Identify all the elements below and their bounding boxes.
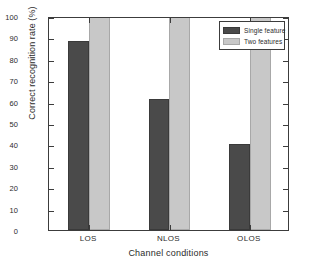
y-tick-mark [49,189,54,190]
y-tick-label: 50 [9,120,18,129]
y-tick-label: 30 [9,162,18,171]
y-tick-mark [49,18,54,19]
y-tick-mark [49,125,54,126]
bar-nlos-series-0 [149,99,170,230]
x-tick-label-olos: OLOS [237,234,260,243]
bar-olos-series-0 [229,144,250,230]
y-tick-label: 20 [9,184,18,193]
y-tick-mark [49,39,54,40]
legend-label: Single feature [244,27,286,34]
x-tick-label-los: LOS [80,234,97,243]
x-tick-mark [170,225,171,230]
y-tick-mark [49,146,54,147]
y-tick-mark [283,18,288,19]
y-tick-label: 60 [9,98,18,107]
y-tick-mark [283,104,288,105]
chart-legend: Single featureTwo features [219,21,285,50]
y-tick-mark [283,146,288,147]
x-tick-label-nlos: NLOS [157,234,180,243]
x-axis-title: Channel conditions [48,248,289,258]
y-tick-label: 40 [9,141,18,150]
bar-nlos-series-1 [169,17,190,230]
y-tick-mark [49,82,54,83]
legend-item-0[interactable]: Single feature [223,25,281,35]
bar-group-nlos [149,18,191,230]
bar-group-los [68,18,110,230]
y-tick-mark [283,211,288,212]
y-tick-mark [283,61,288,62]
y-tick-label: 80 [9,55,18,64]
y-tick-mark [283,125,288,126]
y-tick-mark [49,168,54,169]
y-tick-mark [283,82,288,83]
bar-los-series-0 [68,41,89,230]
y-tick-mark [283,189,288,190]
x-tick-mark [250,225,251,230]
legend-swatch-icon [223,27,240,34]
x-tick-mark [89,18,90,23]
y-axis-title: Correct recognition rate (%) [27,0,37,158]
legend-swatch-icon [223,38,240,45]
y-tick-label: 100 [5,13,18,22]
y-tick-mark [49,61,54,62]
bar-los-series-1 [89,17,110,230]
bar-chart-figure: 0102030405060708090100 LOSNLOSOLOS Chann… [0,0,310,269]
y-tick-mark [283,168,288,169]
x-tick-mark [170,18,171,23]
legend-item-1[interactable]: Two features [223,36,281,46]
y-tick-label: 90 [9,34,18,43]
y-tick-mark [49,211,54,212]
legend-label: Two features [244,38,282,45]
y-tick-label: 10 [9,205,18,214]
y-tick-label: 70 [9,77,18,86]
y-tick-mark [49,104,54,105]
y-tick-label: 0 [14,227,18,236]
x-tick-mark [89,225,90,230]
